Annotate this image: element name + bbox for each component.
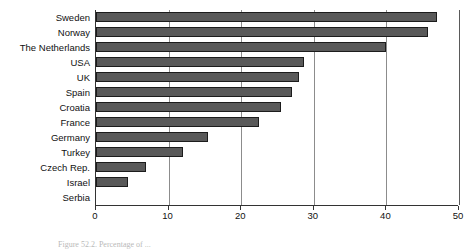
category-label: Czech Rep. — [0, 160, 90, 175]
bar-usa — [96, 57, 304, 67]
bar-row — [96, 25, 458, 40]
bar-czech-rep — [96, 162, 146, 172]
category-label: Croatia — [0, 100, 90, 115]
bar-turkey — [96, 147, 183, 157]
x-tick-label-40: 40 — [380, 210, 391, 222]
bar-row — [96, 85, 458, 100]
x-tick-label-0: 0 — [92, 210, 97, 222]
category-label: Germany — [0, 130, 90, 145]
bar-row — [96, 40, 458, 55]
bar-uk — [96, 72, 299, 82]
bar-row — [96, 175, 458, 190]
category-label: Norway — [0, 25, 90, 40]
category-axis-labels: SwedenNorwayThe NetherlandsUSAUKSpainCro… — [0, 10, 90, 206]
x-tick-label-50: 50 — [453, 210, 464, 222]
bar-the-netherlands — [96, 42, 386, 52]
x-tick-label-20: 20 — [235, 210, 246, 222]
bar-france — [96, 117, 259, 127]
category-label: Sweden — [0, 10, 90, 25]
category-label: USA — [0, 55, 90, 70]
bar-row — [96, 115, 458, 130]
category-label: UK — [0, 70, 90, 85]
x-axis-tick-labels: 01020304050 — [0, 210, 475, 224]
bar-row — [96, 10, 458, 25]
x-tick-label-30: 30 — [308, 210, 319, 222]
plot-area — [95, 10, 458, 206]
gridline-50 — [459, 10, 460, 205]
category-label: France — [0, 115, 90, 130]
bar-norway — [96, 27, 428, 37]
bar-israel — [96, 177, 128, 187]
bar-croatia — [96, 102, 281, 112]
bar-spain — [96, 87, 292, 97]
bar-row — [96, 100, 458, 115]
bar-row — [96, 160, 458, 175]
category-label: The Netherlands — [0, 40, 90, 55]
bar-row — [96, 70, 458, 85]
category-label: Israel — [0, 175, 90, 190]
category-label: Turkey — [0, 145, 90, 160]
figure-caption: Figure 52.2. Percentage of ... — [58, 240, 151, 249]
category-label: Serbia — [0, 190, 90, 205]
bar-germany — [96, 132, 208, 142]
bar-sweden — [96, 12, 437, 22]
bar-row — [96, 130, 458, 145]
bar-row — [96, 145, 458, 160]
bar-row — [96, 190, 458, 205]
horizontal-bar-chart: SwedenNorwayThe NetherlandsUSAUKSpainCro… — [0, 0, 475, 249]
category-label: Spain — [0, 85, 90, 100]
x-tick-label-10: 10 — [162, 210, 173, 222]
bar-rows — [96, 10, 458, 205]
bar-row — [96, 55, 458, 70]
